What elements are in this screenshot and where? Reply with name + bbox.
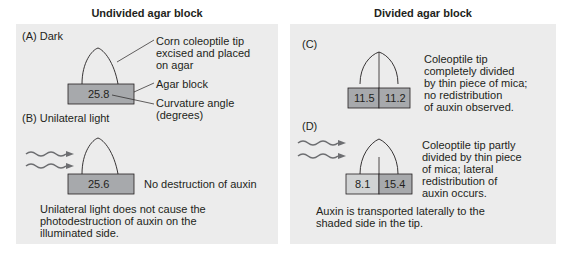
panel-d-label: (D) xyxy=(302,120,317,133)
callout-tip-line3: on agar xyxy=(156,59,193,72)
value-c-left: 11.5 xyxy=(354,92,375,105)
callout-angle-line1: Curvature angle xyxy=(156,97,234,110)
description-d-line1: Coleoptile tip partly xyxy=(422,139,516,152)
description-c-line1: Coleoptile tip xyxy=(424,53,488,66)
callout-agar: Agar block xyxy=(156,78,208,91)
panel-c-label: (C) xyxy=(302,38,317,51)
conclusion-b-line2: photodestruction of auxin on the xyxy=(40,215,197,228)
description-c-line4: no redistribution xyxy=(424,89,502,102)
coleoptile-tip-b xyxy=(82,138,118,174)
coleoptile-tip-a xyxy=(82,48,118,84)
description-c-line3: by thin piece of mica; xyxy=(424,77,527,90)
description-d-line2: divided by thin piece xyxy=(422,151,522,164)
panel-a-label: (A) Dark xyxy=(22,30,63,43)
conclusion-d-line1: Auxin is transported laterally to the xyxy=(316,205,485,218)
value-a: 25.8 xyxy=(88,88,109,101)
light-waves-d xyxy=(298,140,346,159)
value-d-left: 8.1 xyxy=(355,178,370,191)
note-b: No destruction of auxin xyxy=(144,178,257,191)
description-d-line3: of mica; lateral xyxy=(422,163,494,176)
callout-angle-line2: (degrees) xyxy=(156,109,203,122)
panel-b-label: (B) Unilateral light xyxy=(22,112,109,125)
value-b: 25.6 xyxy=(88,178,109,191)
callout-tip-line2: excised and placed xyxy=(156,47,250,60)
callout-tip-line1: Corn coleoptile tip xyxy=(156,35,244,48)
conclusion-b-line3: illuminated side. xyxy=(40,227,119,240)
description-c-line2: completely divided xyxy=(424,65,515,78)
light-waves-b xyxy=(26,151,74,169)
conclusion-b-line1: Unilateral light does not cause the xyxy=(40,203,206,216)
description-d-line5: auxin occurs. xyxy=(422,187,487,200)
conclusion-d-line2: shaded side in the tip. xyxy=(316,217,423,230)
description-c-line5: of auxin observed. xyxy=(424,101,514,114)
value-c-right: 11.2 xyxy=(385,92,406,105)
description-d-line4: redistribution of xyxy=(422,175,497,188)
value-d-right: 15.4 xyxy=(384,178,405,191)
